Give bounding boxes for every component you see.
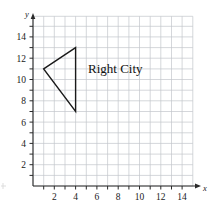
x-axis-tick-labels: 2 4 6 8 10 12 14: [52, 192, 187, 202]
y-tick-label-10: 10: [17, 75, 27, 85]
y-tick-label-8: 8: [21, 96, 26, 106]
y-axis-label: y: [24, 9, 29, 19]
grid-lines: [33, 16, 193, 186]
y-tick-label-4: 4: [21, 139, 26, 149]
page-edge-artifact: [1, 183, 6, 189]
x-axis-arrowhead: [195, 184, 201, 189]
y-tick-label-14: 14: [17, 32, 27, 42]
y-axis-tick-labels: 2 4 6 8 10 12 14: [17, 32, 27, 170]
grid-horizontal-lines: [33, 16, 193, 186]
x-tick-label-8: 8: [116, 192, 121, 202]
right-city-label: Right City: [88, 61, 143, 76]
x-tick-label-10: 10: [135, 192, 145, 202]
y-tick-label-6: 6: [21, 118, 26, 128]
x-tick-label-6: 6: [95, 192, 100, 202]
coordinate-grid-figure: 2 4 6 8 10 12 14 2 4 6 8 10 12 14 x y Ri…: [0, 0, 215, 221]
plot-canvas: 2 4 6 8 10 12 14 2 4 6 8 10 12 14 x y Ri…: [0, 0, 215, 221]
x-tick-label-2: 2: [52, 192, 57, 202]
y-tick-label-2: 2: [21, 160, 26, 170]
x-tick-label-12: 12: [156, 192, 166, 202]
x-axis-label: x: [202, 183, 207, 193]
y-tick-label-12: 12: [17, 54, 27, 64]
x-tick-label-4: 4: [73, 192, 78, 202]
x-tick-label-14: 14: [177, 192, 187, 202]
